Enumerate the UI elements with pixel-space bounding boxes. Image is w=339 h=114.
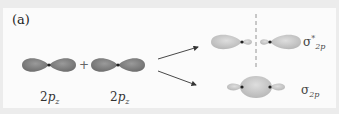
nucleus [47,63,50,66]
atomic-orbital-right [91,58,145,72]
nucleus [116,63,119,66]
plus-sign: + [79,58,89,72]
nucleus [240,40,243,43]
atomic-orbital-left [22,58,76,72]
arrow-to-bonding [158,71,196,85]
atomic-orbital-label-right: 2pz [110,90,130,106]
bonding-orbital [227,76,285,98]
nucleus [268,85,271,88]
antibonding-label: σ*2p [303,34,325,51]
nucleus [240,85,243,88]
nucleus [268,40,271,43]
arrow-to-antibonding [158,47,198,59]
bonding-label: σ2p [301,83,319,99]
atomic-orbital-label-left: 2pz [40,90,60,106]
